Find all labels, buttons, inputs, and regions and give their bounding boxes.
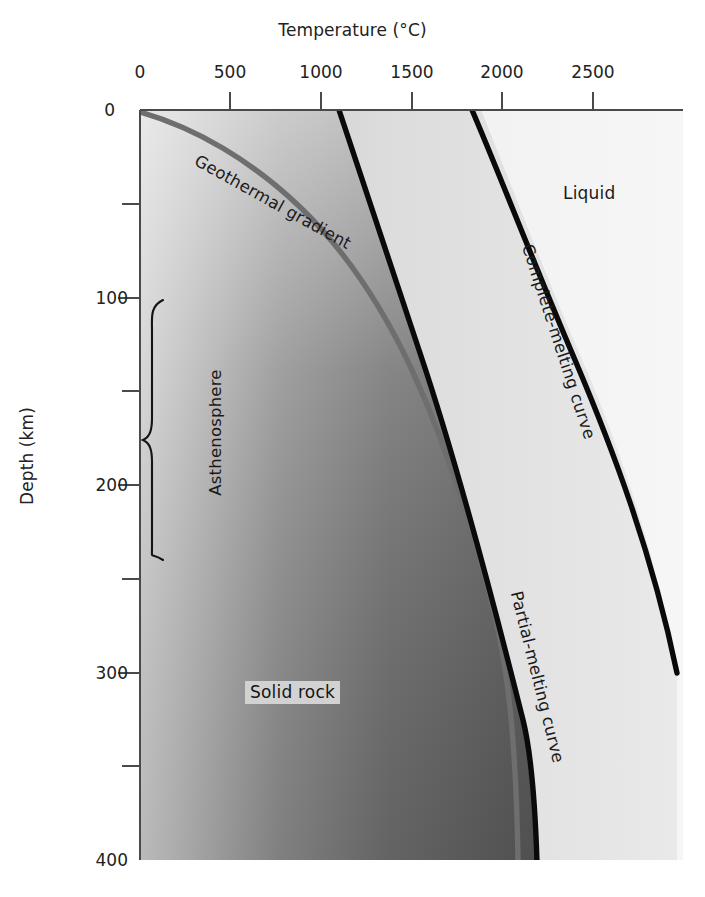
y-tick-label-100: 100 [68, 288, 128, 308]
y-tick-label-300: 300 [68, 663, 128, 683]
x-tick-label-2000: 2000 [467, 62, 537, 82]
x-tick-label-1500: 1500 [377, 62, 447, 82]
label-solid-rock: Solid rock [245, 681, 340, 704]
y-tick-label-400: 400 [68, 850, 128, 870]
y-axis-title: Depth (km) [17, 396, 37, 516]
x-axis-ticks [230, 92, 593, 110]
plot-canvas [0, 0, 705, 897]
x-tick-label-0: 0 [105, 62, 175, 82]
label-liquid: Liquid [563, 183, 615, 203]
x-tick-label-500: 500 [195, 62, 265, 82]
geotherm-melting-figure: Temperature (°C) Depth (km) 0 500 1000 1… [0, 0, 705, 897]
x-tick-label-2500: 2500 [558, 62, 628, 82]
x-axis-title: Temperature (°C) [0, 20, 705, 40]
y-tick-label-0: 0 [55, 100, 115, 120]
x-tick-label-1000: 1000 [286, 62, 356, 82]
y-tick-label-200: 200 [68, 475, 128, 495]
label-asthenosphere: Asthenosphere [206, 338, 225, 528]
